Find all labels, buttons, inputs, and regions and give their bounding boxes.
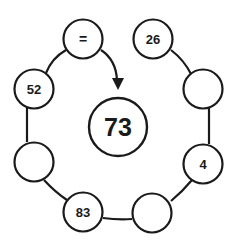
- node-empty-upper-right[interactable]: [184, 70, 223, 109]
- connector-26-right: [171, 50, 191, 74]
- svg-text:=: =: [79, 31, 87, 47]
- svg-text:83: 83: [76, 205, 90, 220]
- connector-83-bottom: [103, 218, 132, 219]
- arrow-down-icon: [112, 78, 124, 90]
- arrow-connector: [101, 50, 117, 80]
- node-empty-bottom-right[interactable]: [133, 194, 172, 233]
- node-52: 52: [15, 70, 54, 109]
- center-node: 73: [89, 98, 147, 156]
- node-empty-lower-left[interactable]: [15, 143, 54, 182]
- svg-text:52: 52: [27, 82, 41, 97]
- svg-text:4: 4: [199, 157, 207, 172]
- node-83: 83: [64, 193, 103, 232]
- node-equals: =: [64, 20, 103, 59]
- svg-text:26: 26: [146, 32, 160, 47]
- center-value: 73: [104, 113, 132, 141]
- node-26: 26: [134, 20, 173, 59]
- connector-left-83: [44, 180, 67, 200]
- connector-4-bottom: [171, 180, 192, 201]
- node-4: 4: [184, 145, 223, 184]
- number-ring-diagram: 73 = 26 52 4 83: [0, 0, 240, 242]
- connector-eq-52: [46, 50, 66, 73]
